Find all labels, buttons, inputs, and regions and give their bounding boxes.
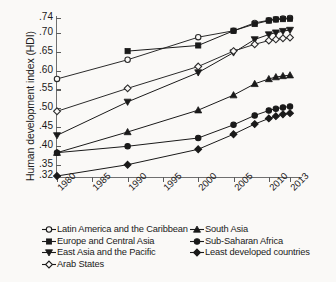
y-tick-label: .60 xyxy=(39,65,53,75)
filled-triangle-down-marker xyxy=(42,247,57,258)
plot-area xyxy=(57,18,290,176)
filled-circle-marker xyxy=(190,236,205,247)
filled-diamond-marker xyxy=(124,161,131,168)
filled-diamond-marker xyxy=(190,247,205,258)
legend-item[interactable]: South Asia xyxy=(190,224,310,236)
filled-circle-marker xyxy=(252,113,257,118)
filled-square-marker xyxy=(287,16,292,21)
legend-item[interactable]: Latin America and the Caribbean xyxy=(42,224,188,236)
legend-column-left: Latin America and the CaribbeanEurope an… xyxy=(42,224,188,270)
filled-square-marker xyxy=(273,17,278,22)
filled-triangle-up-marker xyxy=(190,224,205,235)
series-sub-saharan-africa xyxy=(54,104,292,156)
legend-column-right: South AsiaSub-Saharan AfricaLeast develo… xyxy=(190,224,310,259)
filled-triangle-up-marker xyxy=(287,72,294,78)
legend-item-label: South Asia xyxy=(205,224,248,236)
open-circle-marker xyxy=(196,34,201,39)
series-lines xyxy=(57,18,290,176)
open-diamond-marker xyxy=(42,259,57,270)
legend-item[interactable]: Sub-Saharan Africa xyxy=(190,236,310,248)
filled-diamond-marker xyxy=(265,115,272,122)
filled-diamond-marker xyxy=(251,121,258,128)
y-axis-title: Human development index (HDI) xyxy=(24,18,36,194)
open-diamond-marker xyxy=(42,259,57,270)
hdi-trend-chart: Human development index (HDI) .74.70.65.… xyxy=(0,0,336,282)
filled-triangle-up-marker xyxy=(195,107,202,113)
legend-item[interactable]: East Asia and the Pacific xyxy=(42,247,188,259)
filled-circle-marker xyxy=(273,106,278,111)
series-arab-states xyxy=(54,34,294,115)
filled-square-marker xyxy=(42,236,57,247)
filled-triangle-down-marker xyxy=(124,99,131,105)
filled-circle-marker xyxy=(231,122,236,127)
open-diamond-marker xyxy=(195,63,202,70)
open-diamond-marker xyxy=(287,34,294,41)
x-tick-label: 2013 xyxy=(288,170,311,193)
y-tick-label: .32 xyxy=(39,170,53,180)
filled-diamond-marker xyxy=(190,247,205,258)
legend-item-label: Europe and Central Asia xyxy=(57,236,154,248)
filled-circle-marker xyxy=(194,239,199,244)
filled-diamond-marker xyxy=(195,146,202,153)
open-circle-marker xyxy=(42,224,57,235)
filled-circle-marker xyxy=(287,104,292,109)
filled-square-marker xyxy=(266,18,271,23)
filled-triangle-up-marker xyxy=(230,92,237,98)
series-line xyxy=(57,18,290,79)
open-diamond-marker xyxy=(272,36,279,43)
legend-item-label: Sub-Saharan Africa xyxy=(205,236,283,248)
legend-item[interactable]: Least developed countries xyxy=(190,247,310,259)
filled-triangle-up-marker xyxy=(190,224,205,235)
filled-square-marker xyxy=(42,236,57,247)
open-diamond-marker xyxy=(280,35,287,42)
legend-item[interactable]: Europe and Central Asia xyxy=(42,236,188,248)
filled-diamond-marker xyxy=(230,131,237,138)
filled-square-marker xyxy=(196,43,201,48)
y-tick-label: .35 xyxy=(39,159,53,169)
y-tick-label: .65 xyxy=(39,46,53,56)
filled-square-marker xyxy=(46,239,51,244)
open-diamond-marker xyxy=(251,41,258,48)
y-tick-label: .45 xyxy=(39,121,53,131)
open-diamond-marker xyxy=(265,37,272,44)
legend-item-label: Latin America and the Caribbean xyxy=(57,224,188,236)
filled-square-marker xyxy=(280,17,285,22)
y-tick-label: .74 xyxy=(39,12,53,22)
y-tick-label: .55 xyxy=(39,83,53,93)
open-circle-marker xyxy=(54,76,59,81)
filled-square-marker xyxy=(125,49,130,54)
filled-diamond-marker xyxy=(194,250,201,257)
y-tick-label: .50 xyxy=(39,102,53,112)
filled-circle-marker xyxy=(54,150,59,155)
filled-square-marker xyxy=(231,28,236,33)
filled-triangle-down-marker xyxy=(195,70,202,76)
filled-circle-marker xyxy=(190,236,205,247)
filled-square-marker xyxy=(252,21,257,26)
filled-diamond-marker xyxy=(280,111,287,118)
legend-item-label: East Asia and the Pacific xyxy=(57,247,156,259)
open-diamond-marker xyxy=(54,108,61,115)
filled-triangle-down-marker xyxy=(54,133,61,139)
filled-diamond-marker xyxy=(272,113,279,120)
y-tick-label: .70 xyxy=(39,27,53,37)
filled-triangle-down-marker xyxy=(42,247,57,258)
filled-diamond-marker xyxy=(287,110,294,117)
legend-item-label: Least developed countries xyxy=(205,247,310,259)
open-diamond-marker xyxy=(124,85,131,92)
filled-circle-marker xyxy=(196,135,201,140)
filled-circle-marker xyxy=(280,105,285,110)
open-circle-marker xyxy=(46,227,51,232)
legend-item[interactable]: Arab States xyxy=(42,259,188,271)
filled-circle-marker xyxy=(125,144,130,149)
filled-circle-marker xyxy=(266,108,271,113)
legend-item-label: Arab States xyxy=(57,259,104,271)
series-south-asia xyxy=(54,72,294,156)
open-circle-marker xyxy=(125,57,130,62)
open-diamond-marker xyxy=(46,261,53,268)
open-circle-marker xyxy=(42,224,57,235)
y-tick-label: .40 xyxy=(39,140,53,150)
series-line xyxy=(57,38,290,112)
